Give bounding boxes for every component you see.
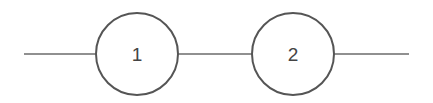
node-2: 2 bbox=[252, 13, 334, 95]
node-2-label: 2 bbox=[288, 44, 299, 65]
node-1-label: 1 bbox=[132, 44, 143, 65]
node-1: 1 bbox=[96, 13, 178, 95]
node-chain-diagram: 1 2 bbox=[0, 0, 433, 103]
